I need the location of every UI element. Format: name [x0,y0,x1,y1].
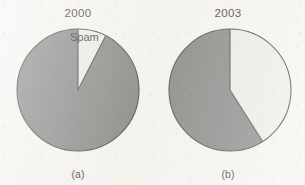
pie-chart-2000 [16,28,140,152]
pie-svg-2000 [16,28,140,152]
pie-svg-2003 [168,28,292,152]
pie-chart-panel-2000: 2000 Spam (a) [0,0,156,185]
chart-caption-a: (a) [0,168,156,181]
pie-chart-panel-2003: 2003 Spam (b) [151,0,305,185]
figure-canvas: 2000 Spam (a) 2003 Spam (b) [0,0,305,185]
chart-caption-b: (b) [151,168,305,181]
chart-title-2003: 2003 [151,6,305,20]
pie-slice-label-spam-2000: Spam [70,31,99,44]
chart-title-2000: 2000 [0,6,156,20]
pie-chart-2003 [168,28,292,152]
